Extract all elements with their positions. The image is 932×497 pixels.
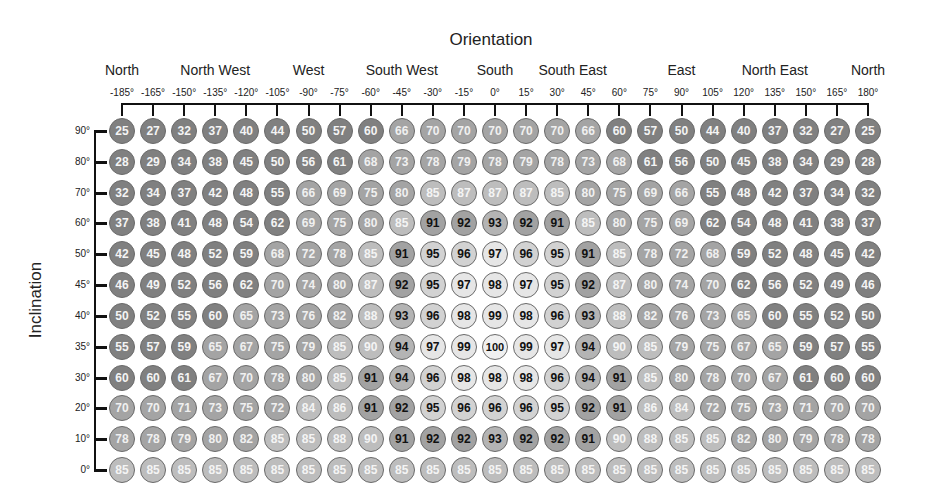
heatmap-cell: 78	[327, 241, 353, 267]
heatmap-cell: 91	[606, 365, 632, 391]
heatmap-cell: 48	[202, 210, 228, 236]
heatmap-cell: 57	[327, 118, 353, 144]
heatmap-cell: 91	[358, 365, 384, 391]
heatmap-cell: 50	[855, 303, 881, 329]
heatmap-cell: 46	[109, 272, 135, 298]
heatmap-cell: 52	[824, 303, 850, 329]
heatmap-cell: 68	[264, 241, 290, 267]
heatmap-cell: 67	[731, 334, 757, 360]
heatmap-cell: 50	[296, 118, 322, 144]
heatmap-cell: 66	[575, 118, 601, 144]
heatmap-cell: 85	[358, 457, 384, 483]
heatmap-cell: 48	[731, 180, 757, 206]
heatmap-cell: 72	[296, 241, 322, 267]
heatmap-cell: 92	[389, 272, 415, 298]
heatmap-cell: 98	[482, 272, 508, 298]
heatmap-cell: 70	[451, 118, 477, 144]
heatmap-cell: 96	[544, 365, 570, 391]
x-tick-label: -30°	[424, 87, 442, 98]
heatmap-cell: 73	[700, 303, 726, 329]
x-tick-mark	[152, 103, 154, 116]
heatmap-cell: 48	[171, 241, 197, 267]
heatmap-cell: 59	[171, 334, 197, 360]
x-tick-label: -90°	[299, 87, 317, 98]
heatmap-cell: 55	[171, 303, 197, 329]
heatmap-cell: 37	[855, 210, 881, 236]
direction-label: South East	[538, 62, 607, 78]
x-tick-label: -15°	[455, 87, 473, 98]
heatmap-cell: 96	[420, 365, 446, 391]
heatmap-cell: 85	[637, 365, 663, 391]
heatmap-cell: 88	[606, 303, 632, 329]
heatmap-cell: 85	[544, 457, 570, 483]
heatmap-cell: 79	[513, 149, 539, 175]
heatmap-cell: 92	[451, 426, 477, 452]
heatmap-cell: 41	[171, 210, 197, 236]
heatmap-cell: 80	[762, 426, 788, 452]
y-tick-label: 80°	[60, 156, 90, 167]
heatmap-cell: 73	[202, 395, 228, 421]
heatmap-cell: 85	[575, 457, 601, 483]
x-tick-mark	[587, 103, 589, 116]
x-tick-mark	[463, 103, 465, 116]
x-tick-mark	[494, 103, 496, 116]
x-tick-label: 90°	[674, 87, 689, 98]
y-axis-title: Inclination	[26, 262, 46, 339]
heatmap-cell: 92	[575, 395, 601, 421]
heatmap-cell: 80	[575, 180, 601, 206]
heatmap-cell: 61	[171, 365, 197, 391]
x-tick-mark	[712, 103, 714, 116]
heatmap-cell: 76	[296, 303, 322, 329]
heatmap-cell: 96	[544, 303, 570, 329]
heatmap-cell: 27	[824, 118, 850, 144]
heatmap-cell: 85	[202, 457, 228, 483]
x-tick-mark	[618, 103, 620, 116]
heatmap-cell: 40	[233, 118, 259, 144]
heatmap-cell: 62	[233, 272, 259, 298]
direction-label: South West	[366, 62, 438, 78]
x-tick-label: 30°	[550, 87, 565, 98]
heatmap-cell: 98	[451, 365, 477, 391]
heatmap-cell: 92	[420, 426, 446, 452]
heatmap-cell: 75	[731, 395, 757, 421]
heatmap-cell: 70	[855, 395, 881, 421]
heatmap-cell: 71	[171, 395, 197, 421]
heatmap-cell: 67	[233, 334, 259, 360]
heatmap-cell: 82	[731, 426, 757, 452]
heatmap-cell: 78	[109, 426, 135, 452]
x-tick-label: 150°	[795, 87, 816, 98]
heatmap-cell: 75	[327, 210, 353, 236]
heatmap-cell: 48	[793, 241, 819, 267]
heatmap-cell: 55	[855, 334, 881, 360]
heatmap-cell: 80	[669, 365, 695, 391]
heatmap-cell: 28	[109, 149, 135, 175]
heatmap-cell: 85	[606, 457, 632, 483]
heatmap-cell: 60	[762, 303, 788, 329]
heatmap-cell: 84	[669, 395, 695, 421]
heatmap-cell: 54	[233, 210, 259, 236]
y-tick-label: 35°	[60, 341, 90, 352]
heatmap-cell: 87	[482, 180, 508, 206]
heatmap-cell: 79	[793, 426, 819, 452]
heatmap-cell: 97	[420, 334, 446, 360]
x-tick-mark	[308, 103, 310, 116]
heatmap-cell: 85	[669, 426, 695, 452]
heatmap-cell: 78	[637, 241, 663, 267]
heatmap-cell: 80	[296, 365, 322, 391]
heatmap-cell: 55	[793, 303, 819, 329]
heatmap-cell: 99	[513, 334, 539, 360]
x-tick-mark	[774, 103, 776, 116]
heatmap-cell: 32	[793, 118, 819, 144]
heatmap-cell: 70	[482, 118, 508, 144]
heatmap-cell: 97	[451, 272, 477, 298]
heatmap-cell: 85	[544, 180, 570, 206]
heatmap-cell: 92	[513, 426, 539, 452]
heatmap-cell: 60	[109, 365, 135, 391]
heatmap-cell: 93	[389, 303, 415, 329]
heatmap-cell: 69	[327, 180, 353, 206]
chart-title: Orientation	[0, 30, 932, 50]
heatmap-cell: 50	[109, 303, 135, 329]
heatmap-cell: 52	[140, 303, 166, 329]
heatmap-cell: 75	[606, 180, 632, 206]
heatmap-cell: 78	[140, 426, 166, 452]
